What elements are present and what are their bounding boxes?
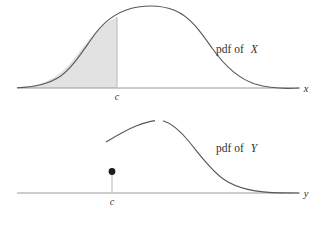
point-mass-dot <box>109 168 116 175</box>
top-axis-label: x <box>303 83 309 94</box>
bottom-threshold-label: c <box>110 196 115 207</box>
figure-svg: c x pdf of X c y <box>0 0 325 230</box>
top-panel-annotation: pdf of X <box>216 43 259 56</box>
probability-density-figure: c x pdf of X c y <box>0 0 325 230</box>
bottom-panel-group: c y pdf of Y <box>17 121 309 207</box>
bottom-axis-label: y <box>303 188 309 199</box>
shaded-tail-area <box>17 17 117 88</box>
bottom-panel-annotation: pdf of Y <box>216 142 259 155</box>
top-panel-group: c x pdf of X <box>17 6 309 102</box>
bottom-panel-annotation-variable: Y <box>251 142 259 154</box>
bottom-panel-annotation-text: pdf of <box>216 142 244 155</box>
top-threshold-label: c <box>115 91 120 102</box>
pdf-of-y-curve-left <box>106 121 155 142</box>
top-panel-annotation-variable: X <box>250 43 259 55</box>
pdf-of-y-curve-right <box>163 121 299 193</box>
top-panel-annotation-text: pdf of <box>216 43 244 56</box>
